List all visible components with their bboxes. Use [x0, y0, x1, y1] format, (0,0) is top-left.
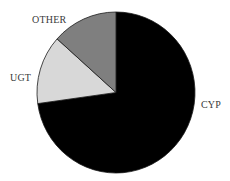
label-cyp: CYP — [201, 99, 221, 110]
label-other: OTHER — [32, 14, 66, 25]
pie-slices — [37, 12, 195, 173]
pie-svg — [0, 0, 230, 181]
label-ugt: UGT — [10, 72, 31, 83]
pie-chart: OTHER UGT CYP — [0, 0, 230, 181]
